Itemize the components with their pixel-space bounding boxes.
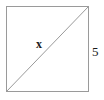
diagonal-line	[7, 7, 89, 92]
side-label: 5	[92, 45, 99, 58]
geometry-figure: x 5	[0, 0, 104, 100]
figure-canvas	[0, 0, 104, 100]
diagonal-label: x	[36, 38, 42, 50]
